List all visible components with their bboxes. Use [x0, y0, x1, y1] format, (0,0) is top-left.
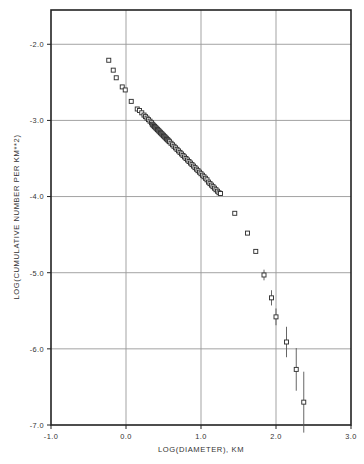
data-point-marker	[274, 315, 278, 319]
figure-background	[0, 0, 364, 464]
y-axis-label: LOG(CUMULATIVE NUMBER PER KM**2)	[12, 134, 21, 299]
data-point-marker	[233, 211, 237, 215]
data-point-marker	[129, 99, 133, 103]
data-point-marker	[123, 88, 127, 92]
y-tick-label: -3.0	[30, 116, 44, 125]
y-tick-label: -7.0	[30, 421, 44, 430]
crater-size-frequency-plot: -1.00.01.02.03.0 -2.0-3.0-4.0-5.0-6.0-7.…	[0, 0, 364, 464]
data-point-marker	[285, 340, 289, 344]
data-point-marker	[107, 58, 111, 62]
data-point-marker	[254, 249, 258, 253]
x-tick-label: 2.0	[270, 432, 281, 441]
x-tick-label: -1.0	[44, 432, 58, 441]
y-tick-label: -2.0	[30, 40, 44, 49]
data-point-marker	[246, 231, 250, 235]
data-point-marker	[294, 367, 298, 371]
data-point-marker	[111, 68, 115, 72]
x-tick-label: 0.0	[120, 432, 131, 441]
plot-svg: -1.00.01.02.03.0 -2.0-3.0-4.0-5.0-6.0-7.…	[0, 0, 364, 464]
data-point-marker	[262, 273, 266, 277]
y-tick-label: -4.0	[30, 192, 44, 201]
y-tick-label: -6.0	[30, 345, 44, 354]
data-point-marker	[270, 296, 274, 300]
data-point-marker	[219, 192, 223, 196]
data-point-marker	[302, 400, 306, 404]
data-point-marker	[114, 76, 118, 80]
y-tick-label: -5.0	[30, 269, 44, 278]
x-tick-label: 1.0	[195, 432, 206, 441]
x-axis-label: LOG(DIAMETER), KM	[158, 445, 244, 454]
x-tick-label: 3.0	[345, 432, 356, 441]
